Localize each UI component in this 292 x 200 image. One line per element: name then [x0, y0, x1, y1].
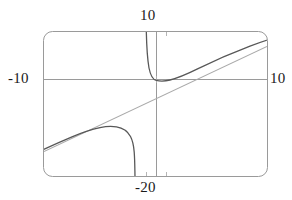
axis-label-top: 10: [140, 8, 155, 23]
curve-lower-branch: [44, 126, 136, 177]
asymptote-line: [44, 47, 267, 152]
axis-label-left: -10: [8, 71, 29, 86]
plot-frame: [44, 32, 268, 177]
plot-canvas: [0, 0, 292, 200]
axis-label-right: 10: [270, 71, 285, 86]
figure-container: 10 -10 10 -20: [0, 0, 292, 200]
axis-label-bottom: -20: [135, 180, 156, 195]
curve-upper-branch: [146, 31, 267, 81]
